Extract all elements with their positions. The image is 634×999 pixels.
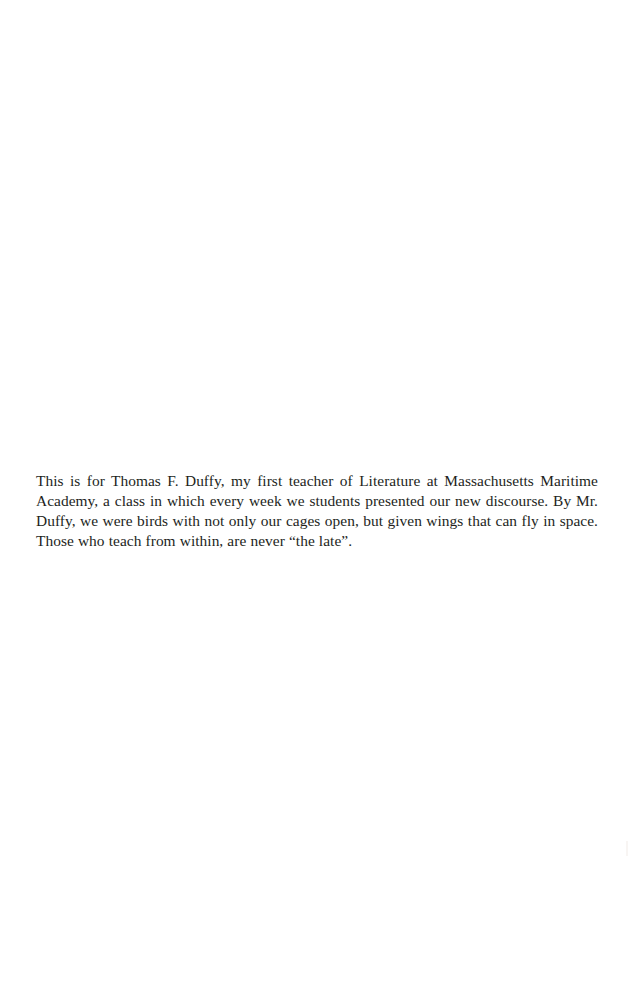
- document-page: This is for Thomas F. Duffy, my first te…: [0, 0, 634, 999]
- dedication-text-block: This is for Thomas F. Duffy, my first te…: [36, 471, 598, 551]
- page-top-whitespace: [0, 0, 634, 478]
- scan-artifact-mark: [626, 841, 628, 856]
- dedication-paragraph: This is for Thomas F. Duffy, my first te…: [36, 471, 598, 551]
